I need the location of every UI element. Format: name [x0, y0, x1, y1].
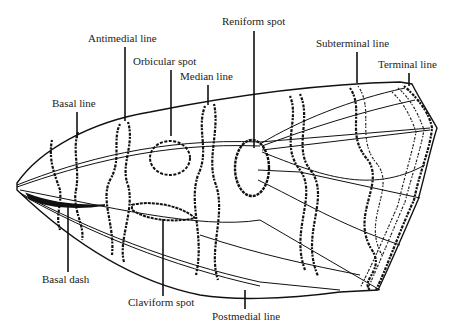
svg-text:Subterminal line: Subterminal line	[316, 37, 389, 49]
svg-text:Terminal line: Terminal line	[378, 58, 437, 70]
moth-wing-diagram: Reniform spot Antimedial line Subtermina…	[0, 0, 460, 336]
svg-text:Orbicular spot: Orbicular spot	[133, 55, 196, 67]
svg-text:Reniform spot: Reniform spot	[222, 15, 285, 27]
label-antimedial-line: Antimedial line	[88, 32, 157, 121]
svg-text:Antimedial line: Antimedial line	[88, 32, 157, 44]
wing-shape	[17, 82, 437, 298]
svg-text:Basal dash: Basal dash	[42, 273, 90, 285]
svg-text:Claviform spot: Claviform spot	[128, 296, 194, 308]
svg-text:Basal line: Basal line	[52, 97, 96, 109]
svg-text:Median line: Median line	[180, 70, 233, 82]
svg-text:Postmedial line: Postmedial line	[212, 310, 280, 322]
